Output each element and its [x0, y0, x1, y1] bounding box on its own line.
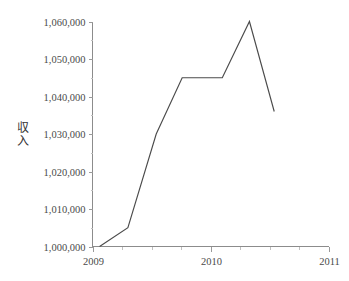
x-tick-label: 2011	[319, 256, 340, 267]
y-tick-label: 1,060,000	[44, 17, 86, 28]
y-tick-label: 1,030,000	[44, 129, 86, 140]
y-axis-title-char: 収	[17, 121, 29, 135]
line-chart: 1,000,0001,010,0001,020,0001,030,0001,04…	[0, 0, 349, 281]
x-tick-label: 2009	[83, 256, 104, 267]
chart-container: 1,000,0001,010,0001,020,0001,030,0001,04…	[0, 0, 349, 281]
chart-background	[0, 0, 349, 281]
y-tick-label: 1,020,000	[44, 167, 86, 178]
y-tick-label: 1,000,000	[44, 242, 86, 253]
y-tick-label: 1,010,000	[44, 204, 86, 215]
x-tick-label: 2010	[201, 256, 222, 267]
y-tick-label: 1,050,000	[44, 54, 86, 65]
y-axis-title: 収入	[17, 121, 29, 148]
y-tick-label: 1,040,000	[44, 92, 86, 103]
y-axis-title-char: 入	[17, 134, 29, 148]
